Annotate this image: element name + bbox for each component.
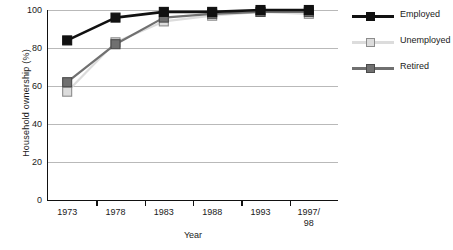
legend-entry-employed[interactable]: Employed — [352, 10, 453, 23]
data-point — [63, 87, 72, 96]
data-point — [159, 7, 168, 16]
series-line — [67, 10, 309, 40]
legend-label: Employed — [400, 9, 440, 19]
series-unemployed — [63, 7, 314, 96]
data-point — [111, 40, 120, 49]
data-point — [63, 36, 72, 45]
line-chart-figure: Household ownership (%) 020406080100 197… — [0, 0, 453, 250]
data-point — [304, 6, 313, 15]
x-axis-title: Year — [48, 230, 338, 240]
data-point — [63, 78, 72, 87]
chart-legend: EmployedUnemployedRetired — [352, 10, 453, 88]
data-point — [208, 7, 217, 16]
legend-label: Retired — [400, 61, 429, 71]
legend-marker-square — [366, 64, 375, 73]
legend-marker-square — [366, 38, 375, 47]
legend-entry-unemployed[interactable]: Unemployed — [352, 36, 453, 49]
data-point — [111, 13, 120, 22]
legend-marker-square — [366, 12, 375, 21]
legend-entry-retired[interactable]: Retired — [352, 62, 453, 75]
data-point — [256, 6, 265, 15]
legend-label: Unemployed — [400, 35, 451, 45]
legend-key-icon — [352, 62, 394, 75]
legend-key-icon — [352, 36, 394, 49]
legend-key-icon — [352, 10, 394, 23]
